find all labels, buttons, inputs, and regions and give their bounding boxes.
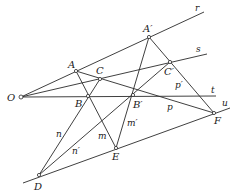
label-p-prime: p′ [175, 80, 183, 90]
line-p-prime [149, 37, 214, 113]
line-s [21, 54, 207, 97]
label-m: m [98, 131, 107, 141]
line-n-prime [39, 62, 170, 175]
line-m-prime [116, 37, 149, 148]
label-n-prime: n′ [72, 146, 80, 156]
line-t [21, 96, 216, 97]
line-p [76, 71, 214, 113]
label-a-prime: A′ [142, 23, 153, 34]
label-s: s [196, 44, 201, 54]
label-c-prime: C′ [164, 66, 175, 77]
line-n [39, 79, 100, 175]
point-e [114, 146, 117, 149]
point-d [37, 173, 40, 176]
label-o: O [7, 92, 15, 103]
label-f: F [213, 115, 222, 126]
label-b: B [74, 98, 82, 109]
label-m-prime: m′ [127, 118, 138, 128]
label-a: A [67, 59, 75, 70]
point-c-prime [168, 60, 171, 63]
point-b-prime [131, 93, 134, 96]
point-a-prime [147, 35, 150, 38]
label-t: t [211, 85, 215, 95]
line-m [76, 71, 116, 148]
point-o [19, 95, 23, 99]
label-n: n [56, 129, 62, 139]
label-p: p [167, 102, 173, 112]
label-c: C [96, 65, 104, 76]
label-e: E [111, 151, 120, 162]
point-b [86, 94, 89, 97]
desargues-diagram: O A C B A′ C′ B′ D E F r s t u p p′ m m′… [0, 0, 237, 196]
label-b-prime: B′ [132, 99, 143, 110]
label-r: r [195, 3, 200, 13]
label-d: D [33, 181, 42, 192]
point-c [98, 77, 101, 80]
label-u: u [222, 98, 228, 108]
